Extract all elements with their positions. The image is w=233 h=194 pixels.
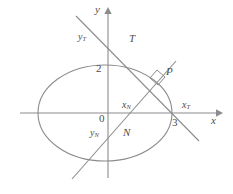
tangent-x-intercept-sub: T (186, 103, 190, 110)
tangent-x-intercept-label: xT (182, 100, 190, 111)
normal-x-intercept-label: xN (122, 100, 131, 111)
point-p-label: P (166, 66, 173, 77)
normal-line (72, 61, 176, 179)
x-axis-arrowhead (216, 109, 223, 116)
normal-y-intercept-sub: N (94, 131, 98, 138)
x-axis-label: x (211, 115, 216, 126)
y-axis-arrowhead (104, 7, 111, 14)
tangent-line (76, 16, 199, 141)
normal-line-label: N (123, 127, 130, 138)
tangent-line-label: T (129, 33, 135, 44)
x-tick-label-3: 3 (172, 117, 178, 128)
tangent-y-intercept-label: yT (78, 32, 86, 43)
origin-label: 0 (99, 113, 105, 124)
normal-y-intercept-label: yN (90, 128, 99, 139)
figure-canvas (0, 0, 233, 194)
y-tick-label-2: 2 (96, 63, 102, 74)
tangent-y-intercept-sub: T (82, 35, 86, 42)
y-axis (104, 7, 111, 178)
y-axis-label: y (95, 4, 100, 15)
normal-x-intercept-sub: N (126, 103, 130, 110)
ellipse-tangent-normal-figure: y x 0 2 3 T yT xT N xN yN P (0, 0, 233, 194)
